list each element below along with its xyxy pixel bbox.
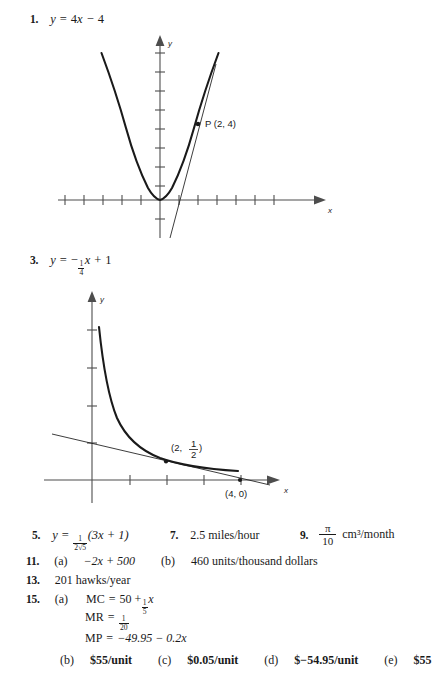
item-15-parts-bcde: (b) $55/unit (c) $0.05/unit (d) $−54.95/… [60, 653, 432, 668]
item-15-part-e-answer: $55 [414, 653, 432, 668]
item-15-part-a-tag: (a) [55, 592, 68, 607]
svg-text:(2,: (2, [171, 442, 182, 453]
item-15-mp-label: MP [85, 631, 102, 646]
figure-1-parabola-with-tangent: x y P (2, 4) [56, 32, 346, 247]
item-15-mr-label: MR [85, 610, 104, 625]
answer-key-page: 1. y=4x−4 [0, 0, 436, 691]
item-15-part-c-answer: $0.05/unit [187, 653, 238, 668]
item-3-fraction: 14 [78, 260, 84, 276]
figure-1-point-P-label: P (2, 4) [205, 118, 236, 129]
item-15-mp-line: MP = −49.95 − 0.2x [85, 631, 187, 646]
answer-item-13: 13. 201 hawks/year [26, 573, 130, 588]
figure-2-x-axis-label: x [283, 486, 289, 495]
item-15-mr-eq: = [108, 610, 115, 625]
item-5-fraction: 12√5 [73, 535, 87, 551]
item-9-unit: cm³/month [342, 527, 394, 542]
item-15-mr-fraction: 120 [119, 615, 129, 631]
item-11-part-a-tag: (a) [54, 554, 67, 569]
figure-1-point-P [196, 122, 201, 127]
figure-2-point-tangency-label: (2, 1 2 ) [171, 438, 202, 460]
item-number-1: 1. [30, 13, 38, 25]
item-11-part-b-tag: (b) [161, 554, 175, 569]
item-15-part-e-tag: (e) [384, 653, 397, 668]
figure-1-svg: x y P (2, 4) [56, 32, 346, 247]
item-number-13: 13. [26, 574, 40, 586]
svg-text:): ) [199, 442, 202, 453]
answer-item-11: 11. (a) −2x + 500 (b) 460 units/thousand… [26, 554, 318, 569]
item-5-equation: y=12√5(3x + 1) [52, 528, 128, 552]
item-3-equation: y=−14x+1 [50, 253, 111, 277]
figure-1-x-axis-label: x [327, 206, 333, 215]
figure-1-x-axis [58, 195, 326, 205]
answer-item-3: 3. y=−14x+1 [30, 253, 112, 277]
item-15-part-c-tag: (c) [158, 653, 171, 668]
figure-2-hyperbola-with-tangent: x y (2, 1 2 ) (4, 0) [42, 288, 332, 503]
svg-text:2: 2 [191, 449, 196, 460]
item-number-3: 3. [30, 254, 38, 266]
answer-item-7: 7. 2.5 miles/hour [170, 528, 260, 543]
item-number-9: 9. [300, 529, 308, 541]
figure-2-point-x-intercept-label: (4, 0) [225, 488, 247, 499]
figure-2-svg: x y (2, 1 2 ) (4, 0) [42, 288, 332, 503]
answer-item-9: 9. π10 cm³/month [300, 522, 395, 548]
figure-1-y-axis-label: y [167, 39, 173, 48]
item-15-part-b-answer: $55/unit [90, 653, 132, 668]
item-number-15: 15. [26, 593, 40, 605]
figure-1-y-axis [155, 35, 165, 238]
figure-2-tangent-line [52, 434, 270, 485]
item-number-11: 11. [26, 555, 39, 567]
item-9-fraction: π10 [319, 522, 336, 548]
item-15-mp-eq: = [106, 631, 113, 646]
answer-item-1: 1. y=4x−4 [30, 12, 104, 27]
item-11-part-a-answer: −2x + 500 [83, 554, 135, 569]
figure-2-point-x-intercept [238, 478, 242, 482]
item-13-answer: 201 hawks/year [55, 573, 131, 588]
item-15-part-b-tag: (b) [60, 653, 74, 668]
item-15-mp-answer: −49.95 − 0.2x [117, 631, 187, 646]
item-1-equation: y=4x−4 [50, 12, 104, 27]
figure-2-point-tangency [164, 459, 168, 463]
item-number-5: 5. [32, 529, 40, 541]
item-15-part-d-answer: $−54.95/unit [294, 653, 358, 668]
item-15-part-d-tag: (d) [264, 653, 278, 668]
item-number-7: 7. [170, 529, 178, 541]
item-7-answer: 2.5 miles/hour [190, 528, 259, 543]
item-11-part-b-answer: 460 units/thousand dollars [191, 554, 318, 569]
answer-item-5: 5. y=12√5(3x + 1) [32, 528, 129, 552]
svg-text:1: 1 [191, 438, 196, 449]
figure-1-tangent-line [170, 64, 216, 238]
figure-2-hyperbola-curve [99, 327, 238, 471]
figure-2-x-axis [44, 475, 280, 485]
figure-2-y-axis-label: y [99, 295, 105, 304]
item-15-mr-line: MR = 120 [85, 610, 129, 631]
item-15-mc-fraction: 15 [142, 599, 148, 615]
figure-2-y-axis [87, 291, 97, 503]
